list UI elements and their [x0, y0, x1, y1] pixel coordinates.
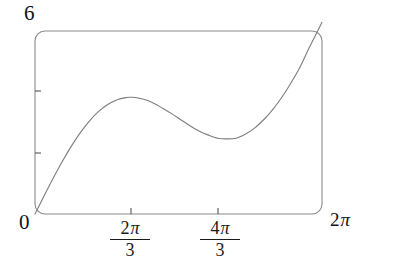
plot-frame: [35, 31, 322, 214]
pi-icon: π: [220, 218, 229, 238]
x-axis-tick-label-2pi-over-3: 2π 3: [110, 219, 150, 260]
function-curve: [35, 22, 322, 214]
numerator-coefficient: 2: [120, 218, 129, 238]
y-axis-max-label: 6: [24, 3, 35, 24]
fraction-numerator: 4π: [200, 219, 240, 238]
origin-label: 0: [19, 212, 30, 233]
fraction-denominator: 3: [110, 241, 150, 260]
numerator-coefficient: 4: [210, 218, 219, 238]
x-axis-max-coefficient: 2: [330, 209, 340, 230]
pi-icon: π: [341, 209, 351, 230]
pi-icon: π: [130, 218, 139, 238]
fraction-denominator: 3: [200, 241, 240, 260]
x-axis-tick-label-4pi-over-3: 4π 3: [200, 219, 240, 260]
fraction-numerator: 2π: [110, 219, 150, 238]
x-axis-max-label: 2π: [330, 210, 350, 229]
chart-figure: 6 0 2π 2π 3 4π 3: [0, 0, 393, 275]
plot-canvas: [0, 0, 393, 275]
